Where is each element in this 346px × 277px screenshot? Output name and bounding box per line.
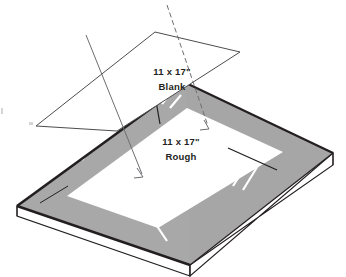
paper-stack-diagram: 11 x 17" Blank 11 x 17" Rough [0,0,346,277]
margin-artifact-dot [29,122,33,125]
diagram-canvas: 11 x 17" Blank 11 x 17" Rough [0,0,346,277]
margin-artifact-mark [1,108,3,114]
margin-artifact [1,108,33,125]
rough-label-line2: Rough [165,151,196,162]
blank-label-line1: 11 x 17" [153,66,190,77]
blank-label-line2: Blank [159,81,186,92]
rough-label-line1: 11 x 17" [162,136,199,147]
